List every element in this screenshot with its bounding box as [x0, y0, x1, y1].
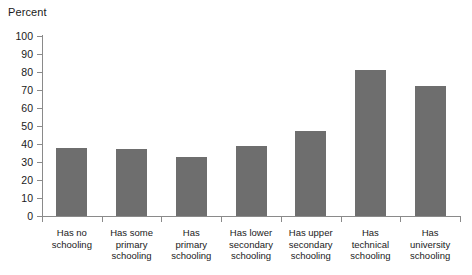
x-axis-tick	[400, 217, 401, 222]
y-axis-tick	[37, 126, 42, 127]
bar	[176, 157, 207, 216]
x-axis-tick	[102, 217, 103, 222]
y-axis-label: 10	[0, 193, 33, 203]
x-axis-category-label: Has university schooling	[400, 227, 460, 262]
y-axis-tick	[37, 54, 42, 55]
bar	[116, 149, 147, 216]
x-axis-tick	[42, 217, 43, 222]
x-axis-category-label: Has upper secondary schooling	[281, 227, 341, 262]
y-axis-tick	[37, 90, 42, 91]
x-axis-line	[42, 216, 461, 217]
x-axis-category-label: Has primary schooling	[161, 227, 221, 262]
x-axis-tick	[161, 217, 162, 222]
y-axis-tick	[37, 180, 42, 181]
bar	[236, 146, 267, 216]
y-axis-label: 40	[0, 139, 33, 149]
y-axis-tick	[37, 162, 42, 163]
y-axis-label: 70	[0, 85, 33, 95]
y-axis-label: 50	[0, 121, 33, 131]
bar-chart: Percent 0102030405060708090100 Has no sc…	[0, 0, 472, 275]
x-axis-tick	[460, 217, 461, 222]
bar	[56, 148, 87, 216]
x-axis-category-label: Has lower secondary schooling	[221, 227, 281, 262]
y-axis-tick	[37, 108, 42, 109]
y-axis-label: 20	[0, 175, 33, 185]
x-axis-category-label: Has some primary schooling	[102, 227, 162, 262]
x-axis-category-label: Has technical schooling	[341, 227, 401, 262]
y-axis-tick	[37, 72, 42, 73]
y-axis-label: 30	[0, 157, 33, 167]
y-axis-label: 60	[0, 103, 33, 113]
y-axis-label: 80	[0, 67, 33, 77]
bar	[355, 70, 386, 216]
x-axis-tick	[281, 217, 282, 222]
x-axis-tick	[221, 217, 222, 222]
y-axis-tick	[37, 36, 42, 37]
y-axis-label: 0	[0, 211, 33, 221]
x-axis-category-label: Has no schooling	[42, 227, 102, 250]
bar	[295, 131, 326, 216]
y-axis-tick	[37, 198, 42, 199]
y-axis-title: Percent	[8, 6, 47, 18]
y-axis-tick	[37, 144, 42, 145]
y-axis-label: 90	[0, 49, 33, 59]
y-axis-label: 100	[0, 31, 33, 41]
y-axis-line	[42, 35, 43, 217]
bar	[415, 86, 446, 216]
x-axis-tick	[341, 217, 342, 222]
